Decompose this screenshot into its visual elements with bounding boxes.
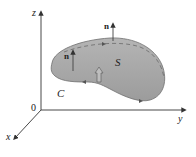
curve-label: C [57,87,65,99]
normal-label-top: n [104,21,109,31]
surface-label: S [115,56,121,68]
y-axis-label: y [177,113,183,124]
surface-diagram: z y x 0 S C n n [0,0,196,157]
z-axis-label: z [31,7,36,18]
x-axis-label: x [5,131,11,142]
origin-label: 0 [31,102,36,113]
surface-s [51,38,165,101]
normal-label-left: n [64,51,69,61]
x-axis [15,110,41,138]
